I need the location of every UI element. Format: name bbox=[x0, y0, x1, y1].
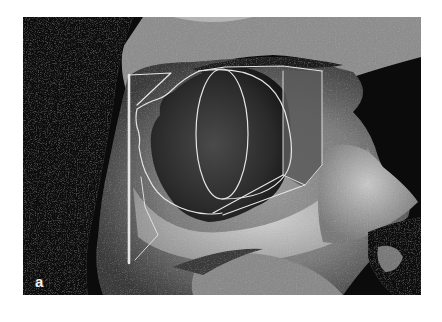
skull-orbit-photo: a bbox=[23, 17, 421, 295]
figure-page: a bbox=[0, 0, 442, 322]
panel-label: a bbox=[35, 274, 43, 289]
photo-canvas bbox=[23, 17, 421, 295]
